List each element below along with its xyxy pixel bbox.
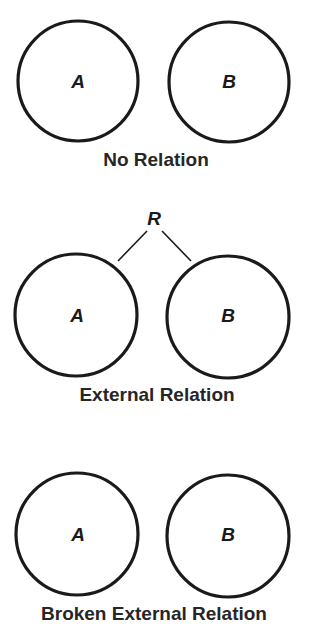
relation-connector-right xyxy=(162,231,191,261)
set-a-label: A xyxy=(70,71,85,92)
relation-connector-left xyxy=(118,231,147,261)
set-b-label: B xyxy=(221,524,235,545)
set-a-label: A xyxy=(70,524,85,545)
set-b-label: B xyxy=(221,305,235,326)
relation-diagram: A B No Relation R A B External Relation … xyxy=(0,0,310,640)
relation-label: R xyxy=(147,208,161,229)
caption-broken-external-relation: Broken External Relation xyxy=(41,603,267,624)
set-a-label: A xyxy=(69,305,84,326)
caption-no-relation: No Relation xyxy=(103,149,209,170)
set-b-label: B xyxy=(222,71,236,92)
panel-no-relation: A B No Relation xyxy=(18,21,289,170)
panel-external-relation: R A B External Relation xyxy=(15,208,289,405)
panel-broken-external-relation: A B Broken External Relation xyxy=(16,473,289,624)
caption-external-relation: External Relation xyxy=(79,384,234,405)
